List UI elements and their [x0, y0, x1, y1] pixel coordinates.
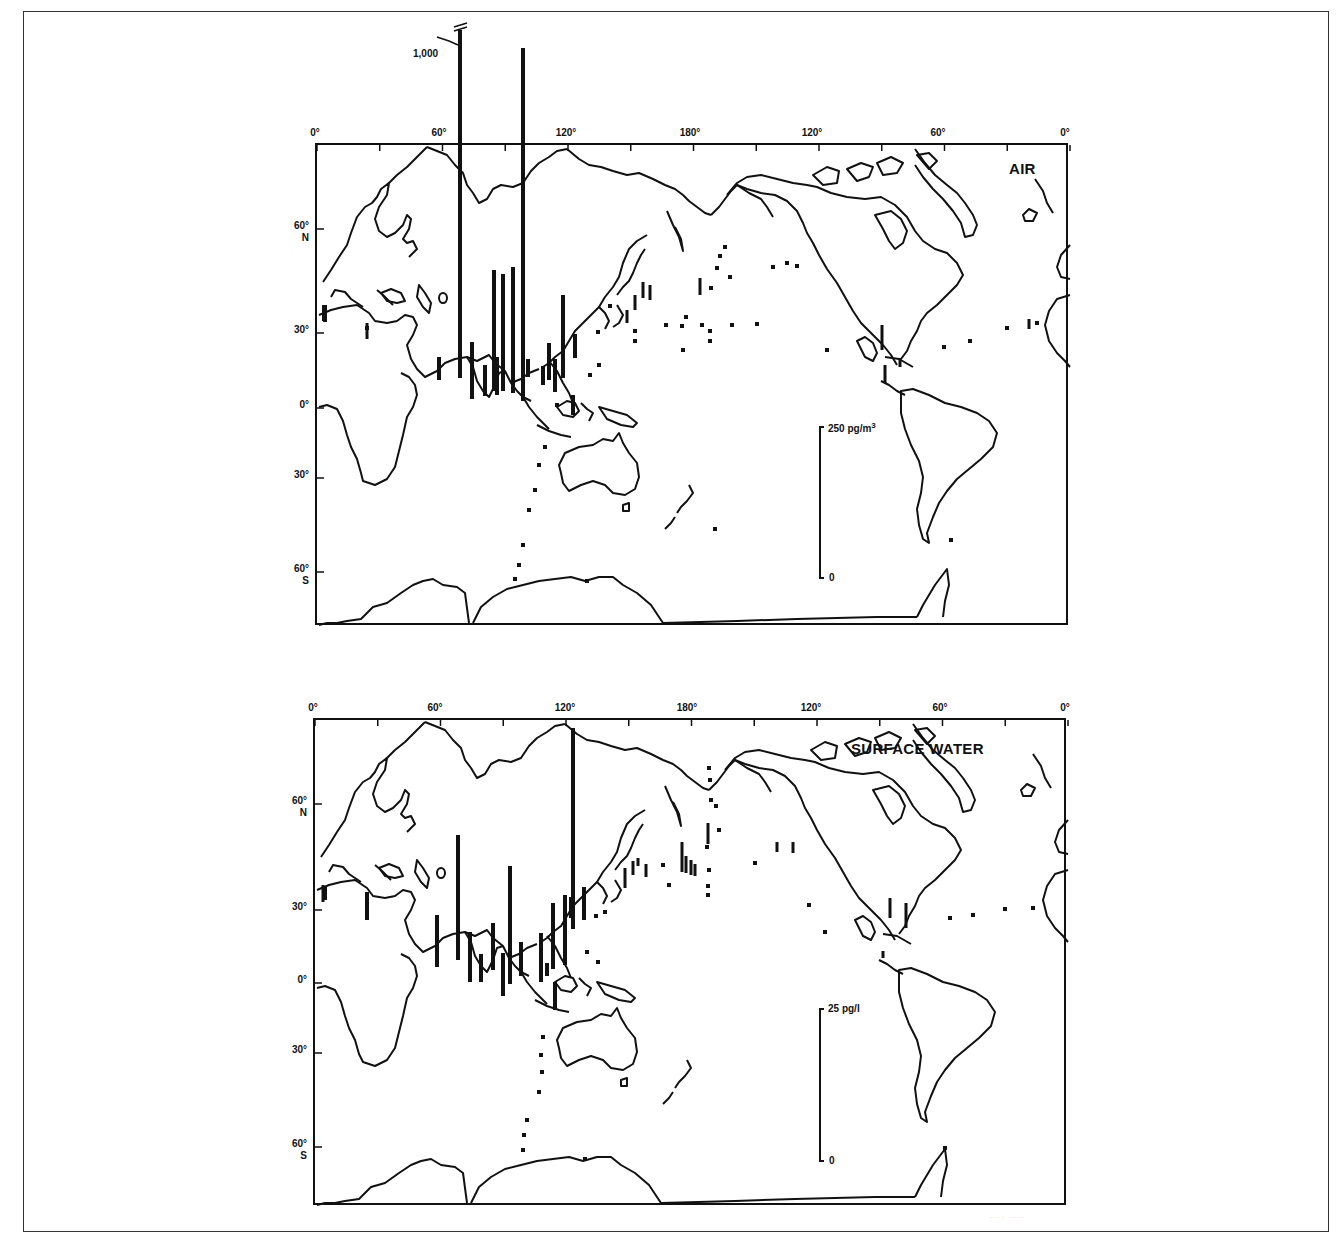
sample-marker [708, 778, 712, 782]
air-longitude-label: 60° [930, 127, 945, 138]
concentration-bar [547, 343, 551, 380]
sample-marker [597, 363, 601, 367]
surface-water-scale-max-label: 25 pg/l [828, 1003, 860, 1014]
air-scale-unit: 250 pg/m [828, 423, 871, 434]
concentration-bar [649, 285, 652, 300]
sample-marker [795, 264, 799, 268]
air-longitude-label: 120° [802, 127, 823, 138]
sample-marker [771, 265, 775, 269]
concentration-bar [539, 933, 543, 982]
concentration-bar [519, 942, 523, 976]
air-coastlines [317, 145, 1070, 627]
concentration-bar [881, 325, 884, 350]
sample-marker [705, 845, 709, 849]
sample-marker [537, 463, 541, 467]
concentration-bar [1028, 319, 1031, 329]
concentration-bar [435, 915, 439, 967]
sample-marker [1035, 321, 1039, 325]
concentration-bar [526, 359, 530, 377]
sample-marker [596, 330, 600, 334]
sample-marker [541, 1035, 545, 1039]
sample-marker [633, 329, 637, 333]
air-panel-title: AIR [1009, 160, 1036, 177]
sample-marker [1005, 326, 1009, 330]
concentration-bar [470, 342, 474, 399]
sample-marker [594, 914, 598, 918]
concentration-bar [690, 860, 693, 875]
sample-marker [664, 323, 668, 327]
sample-marker [753, 861, 757, 865]
sample-marker [661, 863, 665, 867]
concentration-bar [322, 885, 325, 902]
sample-marker [603, 910, 607, 914]
air-longitude-label: 180° [680, 127, 701, 138]
concentration-bar [699, 278, 702, 295]
surface-water-latitude-label: 0° [281, 974, 307, 986]
concentration-bar [685, 856, 688, 873]
sample-marker [1003, 907, 1007, 911]
concentration-bar [545, 963, 549, 976]
concentration-bar [905, 903, 908, 928]
surface-water-longitude-label: 60° [427, 702, 442, 713]
air-scale-zero-label: 0 [829, 572, 835, 583]
sample-marker [717, 828, 721, 832]
concentration-bar [501, 274, 505, 391]
sample-marker [943, 1146, 947, 1150]
sample-marker [755, 322, 759, 326]
concentration-bar [707, 823, 710, 844]
concentration-bar [884, 365, 887, 383]
sample-marker [730, 323, 734, 327]
sample-marker [585, 950, 589, 954]
sample-marker [667, 883, 671, 887]
concentration-bar [521, 48, 525, 401]
sample-marker [539, 1053, 543, 1057]
sample-marker [706, 893, 710, 897]
sample-marker [971, 913, 975, 917]
concentration-bar [632, 861, 635, 875]
sample-marker [513, 577, 517, 581]
sample-marker [700, 323, 704, 327]
concentration-bar [553, 359, 557, 392]
air-sample-dots [323, 245, 1039, 583]
concentration-bar [456, 835, 460, 960]
surface-water-scale-zero-label: 0 [829, 1155, 835, 1166]
sample-marker [825, 348, 829, 352]
sample-marker [521, 543, 525, 547]
surface-water-axis-ticks [315, 720, 1068, 1147]
air-scale-unit-exponent: 3 [871, 421, 875, 430]
concentration-bar [637, 858, 640, 866]
concentration-bar [776, 842, 779, 852]
sample-marker [706, 884, 710, 888]
air-latitude-label: 30° [283, 469, 309, 481]
concentration-bar [563, 895, 567, 965]
sample-marker [681, 348, 685, 352]
air-scale-max-label: 250 pg/m3 [828, 421, 876, 434]
surface-water-longitude-label: 0° [308, 702, 318, 713]
concentration-bar [694, 864, 697, 876]
sample-marker [713, 527, 717, 531]
sample-marker [583, 1157, 587, 1161]
concentration-bar [624, 868, 627, 888]
surface-water-longitude-label: 120° [801, 702, 822, 713]
sample-marker [543, 445, 547, 449]
sample-marker [723, 245, 727, 249]
sample-marker [715, 266, 719, 270]
air-longitude-label: 0° [1060, 127, 1070, 138]
sample-marker [708, 339, 712, 343]
air-latitude-label: 60°S [283, 563, 309, 587]
sample-marker [588, 373, 592, 377]
sample-marker [522, 1133, 526, 1137]
surface-water-latitude-label: 60°S [281, 1138, 307, 1162]
concentration-bar [366, 323, 369, 339]
concentration-bar [561, 295, 565, 378]
sample-marker [707, 868, 711, 872]
air-map: AIR 250 pg/m3 0 1,000 [315, 143, 1068, 625]
concentration-bar [634, 295, 637, 310]
sample-marker [714, 804, 718, 808]
air-latitude-label: 0° [283, 399, 309, 411]
sample-marker [596, 960, 600, 964]
sample-marker [585, 579, 589, 583]
surface-water-sample-dots [521, 766, 1035, 1161]
sample-marker [537, 1090, 541, 1094]
sample-marker [968, 339, 972, 343]
